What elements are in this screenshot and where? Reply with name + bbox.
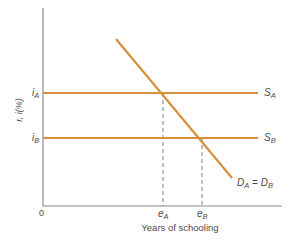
label-demand: DA = DB <box>237 177 273 190</box>
origin-label: 0 <box>39 208 44 218</box>
x-tick-eA: eA <box>158 208 169 221</box>
schooling-equilibrium-diagram: r, i(%) iA iB 0 eA eB Years of schooling… <box>0 0 295 245</box>
y-axis-label: r, i(%) <box>14 98 24 122</box>
y-tick-iA: iA <box>32 87 39 100</box>
demand-curve <box>116 39 232 178</box>
x-tick-eB: eB <box>197 208 208 221</box>
x-axis-label: Years of schooling <box>141 222 218 233</box>
y-tick-iB: iB <box>32 132 39 145</box>
label-SA: SA <box>264 87 276 100</box>
label-SB: SB <box>264 132 276 145</box>
